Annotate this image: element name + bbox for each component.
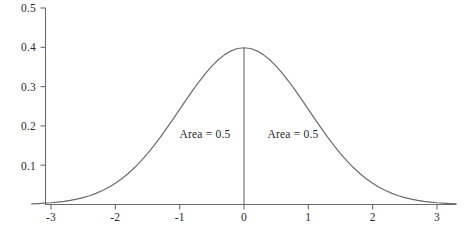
x-tick-label--2: -2 <box>110 211 120 223</box>
x-tick-label-2: 2 <box>370 211 376 223</box>
right-area-label: Area = 0.5 <box>268 128 319 140</box>
y-tick-label-0.3: 0.3 <box>0 81 36 93</box>
y-tick-label-0.2: 0.2 <box>0 120 36 132</box>
normal-distribution-chart: 0.5 0.4 0.3 0.2 0.1 -3 -2 -1 0 1 2 3 Are… <box>0 0 465 228</box>
x-tick-marks <box>51 205 437 210</box>
x-tick-label-1: 1 <box>305 211 311 223</box>
left-area-label: Area = 0.5 <box>180 128 231 140</box>
plot-canvas <box>0 0 465 228</box>
x-tick-label--3: -3 <box>46 211 56 223</box>
x-tick-label-3: 3 <box>434 211 440 223</box>
axes-group <box>46 8 457 205</box>
y-tick-label-0.4: 0.4 <box>0 41 36 53</box>
y-tick-label-0.5: 0.5 <box>0 2 36 14</box>
y-tick-label-0.1: 0.1 <box>0 160 36 172</box>
x-tick-label--1: -1 <box>175 211 185 223</box>
x-tick-label-0: 0 <box>241 211 247 223</box>
y-tick-marks <box>41 8 46 165</box>
